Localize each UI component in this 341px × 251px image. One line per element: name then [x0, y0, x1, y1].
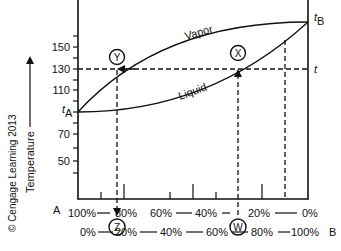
y-tick-130: 130: [52, 63, 70, 75]
row-b-label: B: [329, 226, 336, 238]
point-y: Y: [110, 50, 125, 65]
label-tB: tB: [314, 11, 324, 27]
row-b-100: 100%: [291, 226, 319, 238]
row-b-80: 80%: [251, 226, 273, 238]
row-a-100: 100%: [68, 207, 96, 219]
vapor-label: Vapor: [183, 22, 214, 41]
row-a-20: 20%: [248, 207, 270, 219]
row-a-label: A: [53, 204, 61, 216]
svg-text:X: X: [235, 48, 242, 59]
label-t: t: [314, 63, 318, 75]
point-w: W: [230, 219, 246, 235]
row-b-40: 40%: [160, 226, 182, 238]
y-tick-50: 50: [58, 155, 70, 167]
svg-text:Y: Y: [114, 52, 121, 63]
row-a-60: 60%: [150, 207, 172, 219]
y-tick-150: 150: [52, 41, 70, 53]
y-tick-70: 70: [58, 128, 70, 140]
row-a-40: 40%: [195, 207, 217, 219]
row-b-0: 0%: [80, 226, 96, 238]
row-b-60: 60%: [206, 226, 228, 238]
y-tick-110: 110: [52, 84, 70, 96]
svg-text:W: W: [233, 222, 243, 233]
copyright: © Cengage Learning 2013: [7, 114, 18, 232]
y-axis-label: Temperature: [24, 131, 36, 193]
row-a-0: 0%: [302, 207, 318, 219]
phase-diagram: 150 130 110 70 50 tA tB t Vapor Liquid Y…: [0, 0, 341, 251]
label-tA: tA: [62, 103, 73, 119]
point-x: X: [231, 46, 246, 61]
liquid-label: Liquid: [177, 81, 209, 102]
row-b-20: 20%: [115, 226, 137, 238]
row-a-80: 80%: [115, 207, 137, 219]
